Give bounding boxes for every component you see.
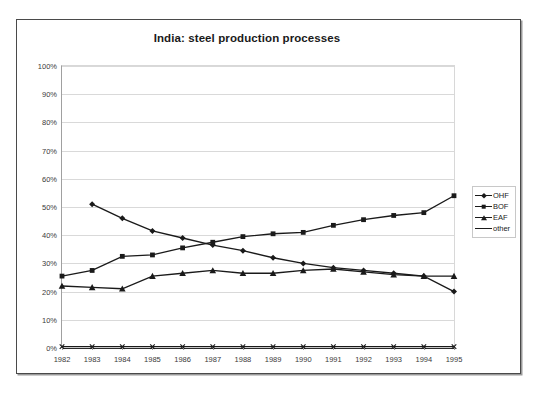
- legend-item-bof[interactable]: BOF: [475, 201, 513, 212]
- data-point-marker: [240, 248, 246, 254]
- series-bof: [60, 193, 457, 278]
- x-axis-tick-label: 1995: [446, 355, 463, 364]
- data-point-marker: [241, 234, 246, 239]
- data-point-marker: [331, 223, 336, 228]
- legend-item-other[interactable]: other: [475, 223, 513, 234]
- x-axis-tick-label: 1991: [325, 355, 342, 364]
- y-axis-tick-label: 60%: [42, 174, 57, 183]
- data-point-marker: [119, 215, 125, 221]
- data-point-marker: [421, 210, 426, 215]
- y-axis-tick-label: 100%: [38, 62, 57, 71]
- data-point-marker: [89, 201, 95, 207]
- y-axis-tick-label: 90%: [42, 90, 57, 99]
- data-point-marker: [60, 274, 65, 279]
- data-point-marker: [451, 289, 457, 295]
- x-axis-tick-label: 1994: [416, 355, 433, 364]
- legend-item-label: BOF: [492, 202, 508, 211]
- series-eaf: [59, 266, 458, 292]
- data-point-marker: [150, 253, 155, 258]
- y-axis-tick-label: 10%: [42, 315, 57, 324]
- x-axis-tick-label: 1985: [144, 355, 161, 364]
- data-point-marker: [452, 193, 457, 198]
- x-axis-tick-label: 1987: [204, 355, 221, 364]
- legend-item-eaf[interactable]: EAF: [475, 212, 513, 223]
- x-axis-tick-label: 1992: [355, 355, 372, 364]
- data-point-marker: [90, 268, 95, 273]
- legend-marker-icon: [475, 191, 492, 200]
- plot-area: 0%10%20%30%40%50%60%70%80%90%100% 198219…: [61, 65, 455, 348]
- legend-item-label: EAF: [492, 213, 508, 222]
- x-axis-tick-label: 1983: [84, 355, 101, 364]
- y-axis-tick-label: 30%: [42, 259, 57, 268]
- data-point-marker: [361, 217, 366, 222]
- data-point-marker: [271, 231, 276, 236]
- chart-title: India: steel production processes: [17, 32, 477, 44]
- y-axis-tick-label: 80%: [42, 118, 57, 127]
- legend-item-ohf[interactable]: OHF: [475, 190, 513, 201]
- series-layer: [62, 66, 454, 348]
- legend-marker-icon: [475, 202, 492, 211]
- y-axis-tick-label: 40%: [42, 231, 57, 240]
- legend-item-label: other: [492, 224, 510, 233]
- data-point-marker: [180, 235, 186, 241]
- x-axis-tick-label: 1982: [54, 355, 71, 364]
- data-point-marker: [120, 254, 125, 259]
- y-axis-tick-label: 70%: [42, 146, 57, 155]
- x-axis-tick-label: 1984: [114, 355, 131, 364]
- legend-marker-icon: [475, 213, 492, 222]
- data-point-marker: [300, 260, 306, 266]
- chart-frame: India: steel production processes 0%10%2…: [16, 19, 521, 374]
- data-point-marker: [180, 245, 185, 250]
- x-axis-tick-label: 1988: [235, 355, 252, 364]
- data-point-marker: [391, 213, 396, 218]
- series-line: [62, 196, 454, 276]
- y-axis-tick-label: 0%: [46, 344, 57, 353]
- x-axis-tick-label: 1993: [385, 355, 402, 364]
- legend-item-label: OHF: [492, 191, 509, 200]
- chart-legend: OHFBOFEAFother: [472, 186, 516, 238]
- x-axis-tick-label: 1986: [174, 355, 191, 364]
- data-point-marker: [149, 228, 155, 234]
- legend-marker-icon: [475, 224, 492, 233]
- x-axis-tick-label: 1989: [265, 355, 282, 364]
- data-point-marker: [210, 240, 215, 245]
- data-point-marker: [270, 255, 276, 261]
- x-axis-tick-label: 1990: [295, 355, 312, 364]
- y-axis-tick-label: 20%: [42, 287, 57, 296]
- data-point-marker: [301, 230, 306, 235]
- y-axis-tick-label: 50%: [42, 203, 57, 212]
